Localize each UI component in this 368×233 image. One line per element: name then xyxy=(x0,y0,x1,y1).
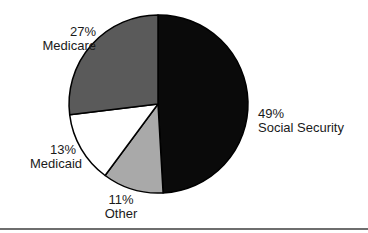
label-other-name: Other xyxy=(101,207,141,221)
label-other: 11% Other xyxy=(101,193,141,221)
label-medicaid-pct: 13% xyxy=(24,143,82,157)
label-medicare-pct: 27% xyxy=(30,25,96,39)
label-medicaid-name: Medicaid xyxy=(24,157,82,171)
label-other-pct: 11% xyxy=(101,193,141,207)
slice-social-security xyxy=(158,15,248,193)
label-medicaid: 13% Medicaid xyxy=(24,143,82,171)
label-medicare: 27% Medicare xyxy=(30,25,96,53)
bottom-rule-divider xyxy=(0,228,368,230)
label-medicare-name: Medicare xyxy=(30,39,96,53)
pie-chart: 27% Medicare 49% Social Security 13% Med… xyxy=(0,0,368,233)
label-social-security-pct: 49% xyxy=(258,107,344,121)
label-social-security: 49% Social Security xyxy=(258,107,344,135)
label-social-security-name: Social Security xyxy=(258,121,344,135)
